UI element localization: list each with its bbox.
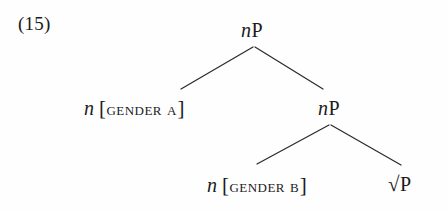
tree-node-n-gender-a: n[gender a] [84, 98, 185, 119]
category-n-label: n [241, 19, 252, 41]
radical-icon: √ [388, 172, 400, 196]
feature-label-gender-b: gender b [230, 175, 300, 196]
feature-label-gender-a: gender a [107, 98, 177, 119]
category-p-label: P [400, 173, 411, 195]
branch-root-to-left [181, 47, 253, 89]
close-bracket: ] [177, 96, 185, 120]
category-n-label: n [84, 97, 95, 119]
open-bracket: [ [222, 173, 230, 197]
example-number: (15) [18, 14, 50, 33]
tree-node-embedded-np: nP [318, 98, 340, 118]
figure-canvas: (15) nP n[gender a] nP n[gender b] √P [0, 0, 448, 210]
open-bracket: [ [99, 96, 107, 120]
category-p-label: P [329, 97, 340, 119]
tree-node-root-np: nP [241, 20, 263, 40]
tree-node-n-gender-b: n[gender b] [207, 175, 307, 196]
category-n-label: n [318, 97, 329, 119]
branch-mid-to-left [257, 125, 329, 164]
branch-root-to-right [255, 47, 323, 89]
category-p-label: P [252, 19, 263, 41]
category-n-label: n [207, 174, 218, 196]
branch-mid-to-right [331, 125, 401, 165]
close-bracket: ] [299, 173, 307, 197]
tree-node-root-radical-p: √P [388, 174, 411, 195]
